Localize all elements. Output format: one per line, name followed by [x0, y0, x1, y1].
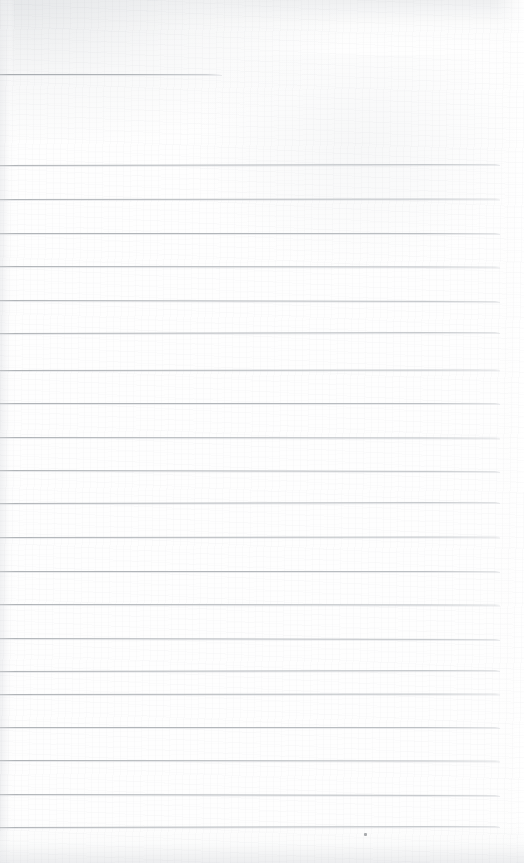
- ruled-line: [0, 369, 500, 371]
- ruled-line: [0, 571, 500, 572]
- ruled-line: [0, 826, 500, 828]
- scan-speck: [364, 833, 367, 836]
- ruled-line: [0, 266, 500, 268]
- ruled-line: [0, 727, 500, 728]
- ruled-line: [0, 794, 500, 796]
- header-rule: [0, 74, 222, 75]
- ruled-line: [0, 536, 500, 538]
- ruled-line: [0, 233, 500, 234]
- ruled-line: [0, 198, 500, 200]
- ruled-line: [0, 437, 500, 439]
- ruled-line: [0, 164, 500, 166]
- ruled-line: [0, 470, 500, 472]
- ruled-line: [0, 638, 500, 640]
- ruled-line: [0, 300, 500, 302]
- ruled-line: [0, 502, 500, 504]
- scan-noise-layer-secondary: [0, 0, 524, 863]
- scanned-page: [0, 0, 524, 863]
- ruled-line: [0, 693, 500, 695]
- ruled-line: [0, 332, 500, 334]
- ruled-line: [0, 670, 500, 672]
- ruled-line: [0, 760, 500, 762]
- ruled-line: [0, 403, 500, 404]
- ruled-line: [0, 604, 500, 606]
